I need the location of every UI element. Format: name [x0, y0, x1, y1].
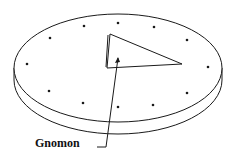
hour-mark-dot — [26, 63, 29, 66]
hour-mark-dot — [207, 66, 210, 69]
gnomon-label: Gnomon — [35, 136, 80, 151]
hour-mark-dot — [48, 90, 51, 93]
hour-mark-dot — [186, 39, 189, 42]
hour-mark-dot — [49, 37, 52, 40]
hour-mark-dot — [153, 26, 156, 29]
hour-mark-dot — [152, 104, 155, 107]
hour-mark-dot — [83, 25, 86, 28]
hour-mark-dot — [117, 22, 120, 25]
hour-mark-dot — [117, 106, 120, 109]
hour-mark-dot — [186, 92, 189, 95]
hour-mark-dot — [82, 102, 85, 105]
